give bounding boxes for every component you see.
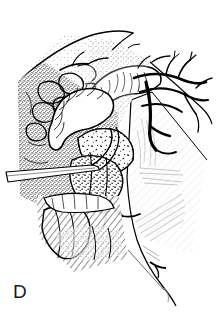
anatomical-illustration [0, 0, 219, 317]
figure-panel: D [0, 0, 219, 317]
figure-panel-label: D [13, 282, 27, 301]
lower-tissue-shading [56, 226, 124, 261]
